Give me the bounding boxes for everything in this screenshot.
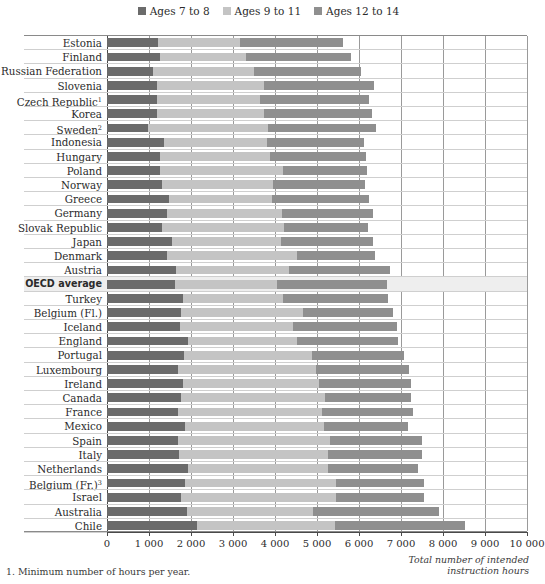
legend-label-ages-7-to-8: Ages 7 to 8 — [150, 6, 210, 16]
stacked-bar — [107, 507, 439, 516]
x-tick-label-4000: 4 000 — [261, 538, 290, 549]
category-label: Slovenia — [57, 79, 102, 93]
bar-segment-series-3 — [293, 322, 397, 331]
bar-segment-series-2 — [157, 81, 264, 90]
category-label: Slovak Republic — [18, 221, 102, 235]
category-label: Israel — [72, 490, 102, 504]
bar-row — [107, 490, 527, 504]
category-row-label: Poland — [24, 164, 107, 178]
x-tick-0 — [107, 532, 108, 536]
bar-segment-series-2 — [148, 124, 268, 133]
bar-segment-series-2 — [185, 422, 324, 431]
stacked-bar — [107, 464, 418, 473]
bar-segment-series-1 — [107, 493, 181, 502]
bar-segment-series-3 — [284, 223, 368, 232]
bar-segment-series-2 — [183, 294, 283, 303]
bar-segment-series-3 — [330, 436, 422, 445]
bar-row — [107, 363, 527, 377]
footnote-marker: 3 — [98, 479, 102, 487]
category-row-label: Turkey — [24, 292, 107, 306]
category-row-label: Mexico — [24, 419, 107, 433]
bar-segment-series-2 — [187, 507, 313, 516]
stacked-bar — [107, 251, 375, 260]
bar-segment-series-1 — [107, 393, 181, 402]
bar-segment-series-1 — [107, 152, 160, 161]
category-label: Czech Republic1 — [17, 93, 102, 107]
bar-segment-series-3 — [297, 251, 375, 260]
bar-segment-series-3 — [335, 521, 465, 530]
footnote-marker: 2 — [98, 124, 102, 132]
bar-segment-series-1 — [107, 38, 158, 47]
category-row-label: Spain — [24, 434, 107, 448]
bar-segment-series-2 — [157, 109, 264, 118]
bar-segment-series-2 — [183, 379, 320, 388]
bar-row — [107, 206, 527, 220]
bar-segment-series-3 — [281, 237, 373, 246]
category-label: Portugal — [58, 348, 102, 362]
bar-segment-series-2 — [160, 53, 246, 62]
bar-segment-series-1 — [107, 308, 181, 317]
x-tick-label-7000: 7 000 — [387, 538, 416, 549]
bar-segment-series-3 — [283, 294, 389, 303]
category-label: Canada — [62, 391, 102, 405]
bars-column — [107, 36, 527, 531]
bar-segment-series-2 — [178, 408, 322, 417]
stacked-bar — [107, 53, 351, 62]
x-axis-caption-line1: Total number of intended — [408, 554, 529, 565]
stacked-bar — [107, 38, 343, 47]
bar-segment-series-3 — [316, 365, 408, 374]
category-label: Korea — [71, 107, 102, 121]
category-labels-column: EstoniaFinlandRussian FederationSlovenia… — [24, 36, 107, 531]
bar-row — [107, 135, 527, 149]
bar-segment-series-3 — [277, 280, 387, 289]
category-label: Netherlands — [37, 462, 102, 476]
category-row-label: Sweden2 — [24, 121, 107, 135]
x-tick-7000 — [401, 532, 402, 536]
bar-segment-series-3 — [336, 479, 424, 488]
x-tick-5000 — [317, 532, 318, 536]
stacked-bar — [107, 450, 422, 459]
x-tick-8000 — [443, 532, 444, 536]
bar-row — [107, 405, 527, 419]
stacked-bar — [107, 393, 411, 402]
stacked-bar — [107, 223, 368, 232]
bar-segment-series-1 — [107, 266, 176, 275]
bar-segment-series-2 — [167, 251, 297, 260]
bar-row — [107, 348, 527, 362]
category-row-label: Slovak Republic — [24, 221, 107, 235]
bar-segment-series-3 — [254, 67, 361, 76]
stacked-bar — [107, 152, 366, 161]
bar-row — [107, 79, 527, 93]
bar-row — [107, 121, 527, 135]
category-row-label: Australia — [24, 505, 107, 519]
bar-segment-series-1 — [107, 521, 197, 530]
bar-row — [107, 334, 527, 348]
stacked-bar — [107, 209, 373, 218]
bar-segment-series-3 — [240, 38, 343, 47]
stacked-bar — [107, 109, 372, 118]
stacked-bar — [107, 408, 413, 417]
legend-swatch-ages-7-to-8 — [138, 7, 146, 15]
bar-segment-series-2 — [188, 464, 328, 473]
bar-row — [107, 50, 527, 64]
bar-segment-series-3 — [322, 408, 412, 417]
bar-segment-series-1 — [107, 351, 184, 360]
category-label: Belgium (Fr.)3 — [29, 476, 102, 490]
stacked-bar — [107, 124, 376, 133]
bar-segment-series-2 — [162, 180, 273, 189]
category-label: Sweden2 — [57, 121, 102, 135]
category-label: Poland — [67, 164, 102, 178]
x-tick-1000 — [149, 532, 150, 536]
bar-row — [107, 235, 527, 249]
stacked-bar — [107, 436, 422, 445]
bar-row — [107, 164, 527, 178]
bar-row — [107, 519, 527, 533]
bar-segment-series-3 — [303, 308, 393, 317]
bar-segment-series-1 — [107, 166, 160, 175]
x-tick-label-10000: 10 000 — [510, 538, 545, 549]
category-row-label: Belgium (Fr.)3 — [24, 476, 107, 490]
category-label: England — [59, 334, 102, 348]
bar-segment-series-3 — [272, 195, 369, 204]
bar-segment-series-1 — [107, 280, 175, 289]
bar-segment-series-2 — [185, 479, 336, 488]
